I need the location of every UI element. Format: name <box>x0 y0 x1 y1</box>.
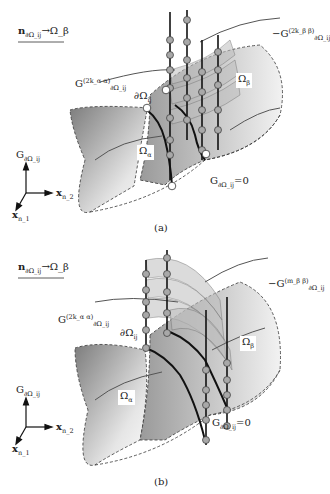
axis-label-x2: xn_2 <box>56 188 74 201</box>
panel-b: n∂Ω_ij→Ω_β G(2k_α α)∂Ω_ij ∂Ωij −G(m_β β)… <box>0 240 320 494</box>
axis-label-x2: xn_2 <box>56 422 74 435</box>
legend-normal: n∂Ω_ij→Ω_β <box>18 262 69 275</box>
label-g-alpha: G(2k_α α)∂Ω_ij <box>75 78 126 92</box>
label-omega-beta: Ωβ <box>236 73 252 88</box>
label-g-zero: G∂Ω_ij=0 <box>212 418 251 431</box>
label-g-beta: −G(m_β β)∂Ω_ij <box>268 278 325 292</box>
caption-a: (a) <box>154 222 168 233</box>
axis-label-x1: xn_1 <box>12 444 30 457</box>
label-omega-beta: Ωβ <box>240 336 256 351</box>
legend-normal: n∂Ω_ij→Ω_β <box>18 26 69 39</box>
axis-label-g: G∂Ω_ij <box>16 385 40 398</box>
label-g-alpha: G(2k_α α)∂Ω_ij <box>58 314 109 328</box>
label-omega-alpha: Ωα <box>137 145 154 160</box>
panel-a: n∂Ω_ij→Ω_β G(2k_α α)∂Ω_ij ∂Ωij −G(2k_β β… <box>0 0 320 232</box>
label-omega-alpha: Ωα <box>118 390 135 405</box>
label-g-beta: −G(2k_β β)∂Ω_ij <box>272 28 330 42</box>
label-g-zero: G∂Ω_ij=0 <box>210 176 249 189</box>
label-boundary: ∂Ωij <box>134 91 152 104</box>
omega-alpha-region <box>75 344 147 465</box>
caption-b: (b) <box>154 476 168 487</box>
axis-label-x1: xn_1 <box>12 210 30 223</box>
axis-label-g: G∂Ω_ij <box>16 150 40 163</box>
label-boundary: ∂Ωij <box>120 328 138 341</box>
